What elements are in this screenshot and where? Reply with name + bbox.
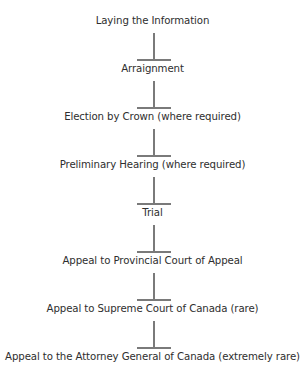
step-appeal-provincial: Appeal to Provincial Court of Appeal <box>0 254 305 268</box>
step-appeal-attorney-general: Appeal to the Attorney General of Canada… <box>0 350 305 364</box>
step-preliminary-hearing: Preliminary Hearing (where required) <box>0 158 305 172</box>
criminal-process-flowchart: Laying the Information Arraignment Elect… <box>0 0 305 381</box>
connector <box>0 273 305 303</box>
step-laying-information: Laying the Information <box>0 14 305 28</box>
step-appeal-supreme-court: Appeal to Supreme Court of Canada (rare) <box>0 302 305 316</box>
step-arraignment: Arraignment <box>0 62 305 76</box>
connector <box>0 33 305 63</box>
connector <box>0 81 305 111</box>
step-election-by-crown: Election by Crown (where required) <box>0 110 305 124</box>
connector <box>0 129 305 159</box>
connector <box>0 177 305 207</box>
connector <box>0 225 305 255</box>
connector <box>0 321 305 351</box>
step-trial: Trial <box>0 206 305 220</box>
